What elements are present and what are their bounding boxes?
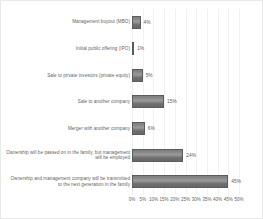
bar[interactable] — [132, 42, 134, 55]
bar[interactable] — [132, 95, 164, 108]
bar-row: Management buyout (MBO)4% — [1, 9, 263, 36]
bar-value-label: 6% — [148, 126, 155, 131]
bar-row: Sale to another company15% — [1, 89, 263, 116]
bar[interactable] — [132, 175, 228, 188]
category-label: Sale to private investors (private equit… — [6, 73, 130, 79]
x-tick-label: 50% — [234, 197, 243, 202]
x-tick-label: 10% — [149, 197, 158, 202]
bar-value-label: 15% — [167, 99, 177, 104]
bar-value-label: 1% — [137, 46, 144, 51]
bar[interactable] — [132, 16, 141, 29]
bar-row: Initial public offering (IPO)1% — [1, 36, 263, 63]
bar-row: Merger with another company6% — [1, 115, 263, 142]
x-tick-label: 15% — [160, 197, 169, 202]
bar-chart: Management buyout (MBO)4%Initial public … — [0, 0, 263, 219]
bar-container: 4% — [132, 16, 150, 29]
bar-container: 15% — [132, 95, 177, 108]
x-tick-label: 20% — [170, 197, 179, 202]
bar-value-label: 5% — [146, 73, 153, 78]
bar-value-label: 45% — [231, 179, 241, 184]
bar-value-label: 4% — [144, 20, 151, 25]
category-label: Merger with another company — [6, 126, 130, 132]
x-axis: 0%5%10%15%20%25%30%35%40%45%50% — [132, 197, 239, 207]
x-tick-label: 25% — [181, 197, 190, 202]
bar-row: Sale to private investors (private equit… — [1, 62, 263, 89]
bar-value-label: 24% — [186, 153, 196, 158]
bar-container: 6% — [132, 122, 155, 135]
bar[interactable] — [132, 122, 145, 135]
bar-rows: Management buyout (MBO)4%Initial public … — [1, 9, 263, 195]
bar-container: 5% — [132, 69, 153, 82]
bar-container: 1% — [132, 42, 144, 55]
x-tick-label: 35% — [202, 197, 211, 202]
x-tick-label: 5% — [139, 197, 146, 202]
category-label: Ownership will be passed on in the famil… — [6, 150, 130, 161]
bar-container: 45% — [132, 175, 241, 188]
x-tick-label: 45% — [224, 197, 233, 202]
x-tick-label: 40% — [213, 197, 222, 202]
bar-container: 24% — [132, 149, 196, 162]
x-tick-label: 30% — [192, 197, 201, 202]
bar[interactable] — [132, 149, 183, 162]
x-tick-label: 0% — [129, 197, 136, 202]
category-label: Initial public offering (IPO) — [6, 46, 130, 52]
category-label: Ownership and management company will be… — [6, 176, 130, 187]
category-label: Sale to another company — [6, 99, 130, 105]
bar-row: Ownership and management company will be… — [1, 168, 263, 195]
category-label: Management buyout (MBO) — [6, 19, 130, 25]
bar[interactable] — [132, 69, 143, 82]
bar-row: Ownership will be passed on in the famil… — [1, 142, 263, 169]
